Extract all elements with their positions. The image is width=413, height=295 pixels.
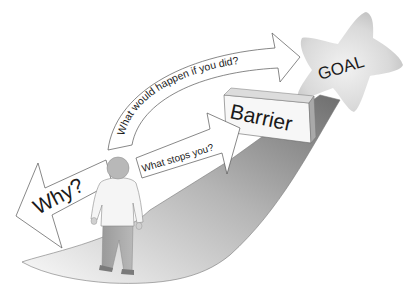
person-hand-left xyxy=(91,218,97,225)
person-hand-right xyxy=(136,223,142,230)
person-shirt xyxy=(91,178,143,226)
person-shoe-right xyxy=(121,269,134,275)
diagram-canvas: GOAL What would happen if you did? Barri… xyxy=(0,0,413,295)
person-head xyxy=(107,157,129,179)
